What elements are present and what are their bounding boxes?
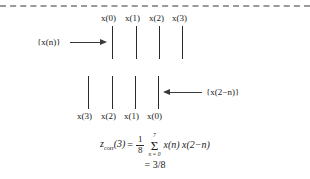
correlation-figure: x(0) x(1) x(2) x(3) {x(n)} x(3) x(2) x(1… <box>0 0 310 179</box>
equation-summand: x(n) x(2−n) <box>163 139 209 151</box>
top-stem-1 <box>136 26 137 59</box>
top-stem-label-3: x(3) <box>172 14 187 23</box>
sigma-icon: Σ <box>151 139 159 152</box>
bottom-stem-3 <box>158 76 159 109</box>
bottom-arrow-shaft <box>170 92 202 93</box>
top-arrow-shaft <box>70 42 102 43</box>
equation-lhs: zcorr(3) <box>100 138 125 152</box>
top-stem-3 <box>182 26 183 59</box>
bottom-stem-1 <box>112 76 113 109</box>
summation-lower-limit: n = 0 <box>148 152 160 158</box>
top-stem-label-2: x(2) <box>149 14 164 23</box>
equation-block: zcorr(3) = 1 8 7 Σ n = 0 x(n) x(2−n) = 3… <box>0 133 310 171</box>
bottom-arrow-head-left-icon <box>163 89 170 95</box>
equation-lhs-arg: (3) <box>114 138 126 149</box>
top-stem-2 <box>159 26 160 59</box>
equation-line-1: zcorr(3) = 1 8 7 Σ n = 0 x(n) x(2−n) <box>0 133 310 157</box>
bottom-stem-2 <box>135 76 136 109</box>
equation-lhs-subscript: corr <box>104 145 114 151</box>
bottom-sequence-label: {x(2−n)} <box>206 88 239 97</box>
top-sequence-label: {x(n)} <box>37 38 61 47</box>
top-stem-label-1: x(1) <box>125 14 140 23</box>
equation-equals: = <box>127 139 133 151</box>
equation-fraction: 1 8 <box>136 135 145 155</box>
top-dashed-rule <box>0 5 310 7</box>
summation-operator: 7 Σ n = 0 <box>148 133 160 157</box>
bottom-stem-label-3: x(0) <box>147 112 162 121</box>
bottom-stem-label-0: x(3) <box>77 112 92 121</box>
bottom-stem-label-2: x(1) <box>124 112 139 121</box>
equation-result: = 3/8 <box>0 159 310 171</box>
fraction-denominator: 8 <box>136 146 145 155</box>
bottom-stem-label-1: x(2) <box>101 112 116 121</box>
top-stem-0 <box>112 26 113 59</box>
top-arrow-head-right-icon <box>100 39 107 45</box>
bottom-stem-0 <box>88 76 89 109</box>
top-stem-label-0: x(0) <box>101 14 116 23</box>
fraction-numerator: 1 <box>136 135 145 145</box>
